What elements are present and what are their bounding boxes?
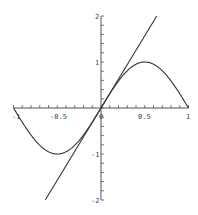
y-tick-label: 1: [95, 59, 99, 67]
y-tick-label: 2: [95, 13, 99, 21]
y-tick-label: -2: [91, 197, 99, 205]
x-tick-label: -0.5: [50, 113, 67, 121]
x-tick-label: 0: [99, 113, 103, 121]
x-tick-label: 1: [186, 113, 190, 121]
x-tick-label: 0.5: [138, 113, 151, 121]
plot-area: -1 -0.5 0 0.5 1 2 1 -1 -2: [0, 0, 198, 215]
y-tick-label: -1: [91, 151, 99, 159]
